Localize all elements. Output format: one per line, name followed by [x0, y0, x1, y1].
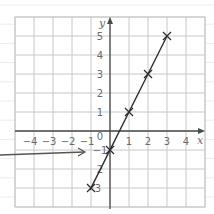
- x-tick-label: 3: [164, 136, 170, 147]
- y-tick-label: 1: [97, 107, 103, 118]
- x-axis-label: x: [197, 134, 204, 147]
- x-tick-label: −2: [61, 136, 76, 147]
- y-tick-label: 5: [97, 31, 103, 42]
- coordinate-plot: xy −4−3−2−1123454321−1230: [0, 0, 214, 214]
- x-tick-label: 4: [183, 136, 189, 147]
- graph-figure: xy −4−3−2−1123454321−1230: [0, 0, 214, 214]
- y-tick-label: −1: [93, 145, 108, 156]
- x-tick-label: 1: [126, 136, 132, 147]
- x-tick-label: −3: [42, 136, 57, 147]
- y-tick-label: 3: [97, 69, 103, 80]
- lined-paper-background: [0, 5, 214, 208]
- y-tick-label: 2: [97, 88, 103, 99]
- y-axis-label: y: [98, 17, 106, 30]
- x-tick-label: 2: [145, 136, 151, 147]
- y-tick-label: 3: [95, 183, 101, 194]
- y-tick-label: 4: [97, 50, 103, 61]
- x-tick-label: −4: [23, 136, 38, 147]
- origin-label: 0: [97, 131, 103, 142]
